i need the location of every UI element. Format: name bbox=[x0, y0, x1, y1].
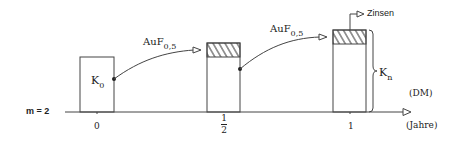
kn-brace bbox=[369, 30, 377, 112]
unit-label: (DM) bbox=[409, 89, 432, 98]
tick-label-1: 1 bbox=[348, 122, 354, 131]
box-label-k0: K0 bbox=[91, 75, 104, 86]
capital-box-kn bbox=[333, 30, 366, 112]
tick-label-0: 0 bbox=[94, 122, 100, 131]
tick-label-half: 1 2 bbox=[220, 114, 228, 135]
arrow-label-1: AuF0,5 bbox=[143, 37, 176, 47]
m-label: m = 2 bbox=[26, 107, 49, 116]
growth-arrow-1 bbox=[112, 47, 201, 81]
interest-label: Zinsen bbox=[367, 9, 394, 18]
capital-box-half bbox=[207, 43, 240, 112]
box-label-kn: Kn bbox=[379, 67, 392, 78]
interest-pointer bbox=[350, 11, 364, 30]
compound-interest-diagram bbox=[0, 0, 463, 143]
arrow-label-2: AuF0,5 bbox=[270, 24, 303, 34]
interest-hatch bbox=[333, 30, 366, 44]
interest-hatch bbox=[207, 43, 240, 57]
axis-label: (Jahre) bbox=[406, 121, 437, 130]
growth-arrow-2 bbox=[238, 34, 327, 71]
